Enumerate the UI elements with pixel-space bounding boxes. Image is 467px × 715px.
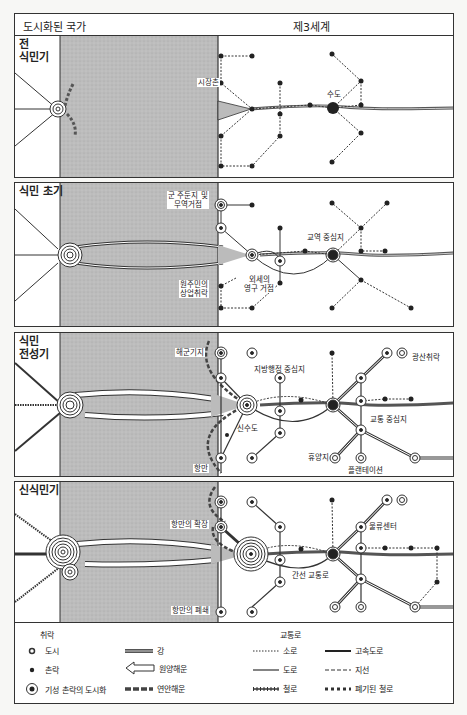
legend-transport-heading: 교통로 [280, 629, 301, 640]
road-icon [253, 666, 279, 674]
legend-item-highway: 고속도로 [325, 645, 383, 656]
urbanized-village-icon [25, 682, 41, 696]
panel-title-line1: 전 [19, 38, 49, 51]
river-icon [125, 647, 153, 655]
legend-item-village: 촌락 [27, 664, 59, 675]
legend-item-branch-line: 지선 [325, 664, 369, 675]
header-urbanized-country: 도시화된 국가 [23, 18, 87, 34]
label-trade-center: 교역 중심지 [306, 233, 345, 242]
label-line: 무역거점 [174, 200, 202, 209]
neocolonial-map [15, 482, 454, 623]
legend-item-river: 강 [125, 645, 164, 656]
label-plantation: 플랜테이션 [347, 466, 384, 475]
old-city-icon [50, 101, 66, 117]
panel-title: 전 식민기 [19, 38, 49, 64]
early-colonial-map [15, 183, 454, 327]
header-third-world: 제3세계 [293, 18, 330, 34]
legend-label: 기성 촌락의 도시화 [45, 684, 106, 695]
legend-label: 소로 [283, 645, 297, 656]
label-line: 상업취락 [180, 289, 208, 298]
label-port-closure: 항만의 폐쇄 [171, 606, 210, 615]
label-logistics: 물류센터 [368, 522, 398, 531]
legend-item-abandoned-railway: 폐기된 철로 [325, 683, 393, 694]
label-trunk-route: 간선 교통로 [291, 571, 330, 580]
legend: 취락 교통로 도시 촌락 기성 촌락의 도시화 강 원양해운 연안해운 소로 도… [14, 622, 454, 704]
capital-icon [327, 102, 339, 114]
panel-title-line1: 식민 [19, 335, 49, 348]
label-foreign-base: 외세의 영구 거점 [243, 275, 275, 293]
abandoned-railway-icon [325, 685, 351, 693]
legend-label: 도로 [283, 664, 297, 675]
panel-precolonial: 전 식민기 시장촌 수도 [14, 35, 454, 178]
legend-label: 고속도로 [355, 645, 383, 656]
village-icon [27, 665, 41, 675]
label-line: 원주민의 [180, 280, 208, 289]
label-new-capital: 신수도 [236, 424, 259, 433]
legend-settlement-heading: 취락 [40, 629, 54, 640]
panel-title-line2: 식민기 [19, 51, 49, 64]
high-colonial-map [15, 333, 454, 477]
label-capital: 수도 [326, 90, 342, 99]
railway-icon [253, 685, 279, 693]
label-mining: 광산취락 [411, 353, 441, 362]
legend-item-path: 소로 [253, 645, 297, 656]
label-garrison: 군 주둔지 및 무역거점 [167, 191, 209, 209]
legend-item-ocean-shipping: 원양해운 [125, 661, 187, 675]
panel-title: 식민 초기 [19, 185, 63, 198]
ocean-shipping-icon [125, 661, 155, 675]
legend-label: 철로 [283, 683, 297, 694]
label-naval-base: 해군기지 [175, 348, 205, 357]
city-icon [27, 646, 41, 656]
highway-icon [325, 647, 351, 655]
legend-label: 도시 [45, 645, 59, 656]
panel-title-line2: 전성기 [19, 348, 49, 361]
panel-title: 식민 전성기 [19, 335, 49, 361]
label-port-expansion: 항만의 확장 [170, 520, 209, 529]
label-line: 영구 거점 [244, 284, 274, 293]
legend-item-railway: 철로 [253, 683, 297, 694]
legend-item-coastal-shipping: 연안해운 [125, 683, 185, 694]
label-native-settlement: 원주민의 상업취락 [179, 280, 209, 298]
label-line: 군 주둔지 및 [168, 191, 208, 200]
path-icon [253, 647, 279, 655]
label-regional-admin: 지방행정 중심지 [253, 365, 306, 374]
branch-line-icon [325, 666, 351, 674]
label-port: 항만 [193, 464, 209, 473]
panel-high-colonial: 식민 전성기 해군기지 지방행정 중심지 광산취락 신수도 교통 중심지 휴양지… [14, 332, 454, 477]
legend-label: 연안해운 [157, 683, 185, 694]
legend-label: 원양해운 [159, 663, 187, 674]
legend-label: 폐기된 철로 [355, 683, 393, 694]
label-line: 외세의 [249, 275, 270, 284]
panel-early-colonial: 식민 초기 군 주둔지 및 무역거점 교역 중심지 외세의 영구 거점 원주민의… [14, 182, 454, 327]
legend-label: 촌락 [45, 664, 59, 675]
diagram-header: 도시화된 국가 제3세계 [14, 13, 454, 36]
legend-item-urbanized-village: 기성 촌락의 도시화 [25, 682, 106, 696]
coastal-shipping-icon [125, 685, 153, 693]
label-transport-hub: 교통 중심지 [369, 415, 408, 424]
panel-title: 신식민기 [19, 484, 59, 497]
precolonial-map [15, 36, 454, 178]
legend-label: 강 [157, 645, 164, 656]
legend-label: 지선 [355, 664, 369, 675]
label-market-town: 시장촌 [197, 78, 220, 87]
legend-item-city: 도시 [27, 645, 59, 656]
panel-neocolonial: 신식민기 항만의 확장 물류센터 간선 교통로 항만의 폐쇄 [14, 481, 454, 623]
label-resort: 휴양지 [307, 453, 330, 462]
legend-item-road: 도로 [253, 664, 297, 675]
